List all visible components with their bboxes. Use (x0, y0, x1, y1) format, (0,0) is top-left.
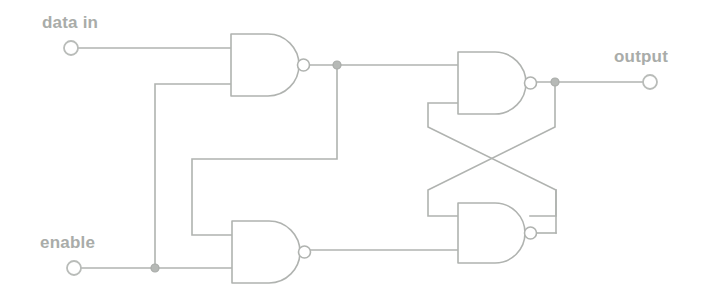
junction-enable-bus (151, 264, 159, 272)
nand-gate-bottom-left-body (232, 221, 300, 283)
circuit-canvas (0, 0, 717, 298)
nand-gate-bottom-right-bubble (525, 227, 537, 239)
nand-gate-top-left-bubble (298, 59, 310, 71)
nand-gate-bottom-right[interactable] (458, 203, 537, 263)
nand-gate-top-right[interactable] (458, 52, 537, 114)
nand-gate-top-left[interactable] (231, 34, 310, 96)
junction-output-node (551, 78, 559, 86)
nand-gate-bottom-left-bubble (299, 246, 311, 258)
data-in-terminal[interactable] (64, 41, 78, 55)
nand-gate-top-right-bubble (525, 77, 537, 89)
wire-cross-coupling-lower (428, 103, 556, 216)
label-output: output (614, 48, 668, 65)
circuit-diagram: data in enable output (0, 0, 717, 298)
wire-enable-branch (155, 84, 231, 268)
junction-gate1-output (333, 61, 341, 69)
enable-terminal[interactable] (67, 261, 81, 275)
label-data-in: data in (42, 14, 98, 31)
nand-gate-bottom-left[interactable] (232, 221, 311, 283)
nand-gate-top-left-body (231, 34, 299, 96)
label-enable: enable (40, 234, 95, 251)
nand-gate-bottom-right-body (458, 203, 525, 263)
nand-gate-top-right-body (458, 52, 526, 114)
output-terminal[interactable] (643, 75, 657, 89)
